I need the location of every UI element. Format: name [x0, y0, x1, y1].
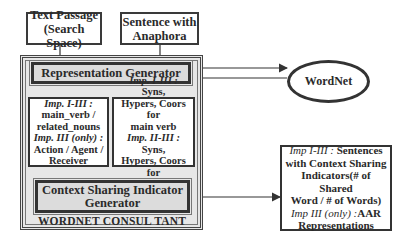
sentence-anaphora-box: Sentence with Anaphora — [120, 12, 199, 45]
left-imp1-text-a: main_verb / — [42, 109, 96, 121]
right-imp2-text-b: Hypers, Coors for — [117, 155, 190, 178]
output-imp1-text-d: Word / # of Words) — [291, 194, 381, 207]
output-imp1-label: Imp I-III : — [289, 144, 334, 156]
context-generator-line1: Context Sharing Indicator — [42, 184, 183, 197]
output-box: Imp I-III : Sentences with Context Shari… — [280, 145, 392, 231]
left-imp1-label: Imp. I-III : — [44, 98, 93, 109]
output-imp1-text-c: Indicators(# of Shared — [284, 169, 388, 194]
wordnet-ellipse: WordNet — [287, 60, 370, 103]
left-imp3-label: Imp. III (only) : — [34, 132, 103, 143]
left-imp3-text-b: Receiver — [49, 155, 88, 167]
sentence-line1: Sentence with — [123, 15, 197, 29]
output-imp3-text-b: Representations — [298, 219, 374, 232]
left-panel: Imp. I-III : main_verb / related_nouns I… — [28, 97, 109, 167]
output-imp1-text-b: with Context Sharing — [286, 157, 387, 170]
sentence-line2: Anaphora — [132, 29, 186, 43]
right-panel: Imp. I-III : Syns, Hypers, Coors for mai… — [112, 97, 195, 167]
right-imp1-label: Imp. I-III : — [129, 75, 178, 86]
context-sharing-indicator-generator: Context Sharing Indicator Generator — [35, 180, 190, 213]
text-passage-line2: (Search Space) — [28, 22, 100, 50]
right-imp1-text-c: main verb — [131, 121, 177, 133]
text-passage-line1: Text Passage — [30, 8, 98, 22]
output-imp3-label: Imp III (only) : — [291, 207, 357, 219]
right-imp2-label: Imp. II-III : — [127, 132, 180, 143]
text-passage-box: Text Passage (Search Space) — [26, 12, 102, 45]
wordnet-label: WordNet — [305, 74, 352, 89]
left-imp1-text-b: related_nouns — [37, 121, 100, 133]
right-imp1-text-a: Syns, — [142, 86, 166, 97]
output-imp1-text-a: Sentences — [334, 144, 383, 156]
consultant-label: WORDNET CONSUL TANT — [26, 215, 198, 227]
context-generator-line2: Generator — [85, 197, 141, 210]
output-imp3-text-a: AAR — [357, 207, 381, 219]
left-imp3-text-a: Action / Agent / — [34, 144, 104, 156]
right-imp2-text-a: Syns, — [142, 144, 166, 155]
right-imp1-text-b: Hypers, Coors for — [117, 98, 190, 121]
